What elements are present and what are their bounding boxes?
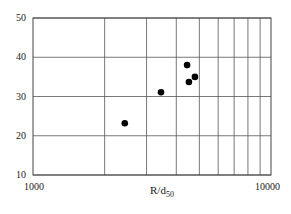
data-point-marker (121, 120, 128, 127)
data-point-marker (184, 62, 191, 69)
x-tick-label: 1000 (24, 181, 44, 192)
y-tick-label: 20 (16, 130, 26, 141)
y-tick-label: 30 (16, 91, 26, 102)
y-axis-tick-labels: 1020304050 (16, 12, 26, 180)
scatter-chart: 1020304050 100010000 (0, 0, 291, 214)
y-tick-label: 50 (16, 12, 26, 23)
data-point-marker (192, 74, 199, 81)
x-axis-label-text: R/d (150, 184, 166, 196)
data-points (121, 62, 198, 127)
data-point-marker (158, 89, 165, 96)
y-tick-label: 40 (16, 51, 26, 62)
x-tick-label: 10000 (255, 181, 280, 192)
y-tick-label: 10 (16, 169, 26, 180)
grid-lines (33, 18, 271, 175)
x-axis-label: R/d50 (150, 184, 174, 199)
data-point-marker (186, 79, 193, 86)
x-axis-label-subscript: 50 (166, 190, 174, 199)
